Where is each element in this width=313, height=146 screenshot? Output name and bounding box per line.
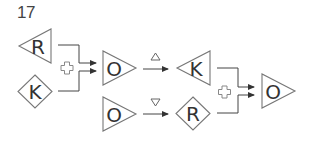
plus-icon (61, 62, 73, 74)
diamond-k: K (18, 75, 52, 108)
left-triangle-k: K (177, 51, 210, 85)
right-triangle-o-result: O (262, 74, 295, 108)
letter-k: K (28, 80, 42, 104)
plus-icon (219, 86, 231, 98)
diamond-r: R (176, 97, 210, 130)
letter-o: O (265, 80, 281, 104)
letter-k: K (189, 57, 203, 81)
letter-r: R (31, 35, 45, 59)
letter-o: O (106, 57, 122, 81)
down-triangle-icon (151, 99, 160, 106)
transform-down (143, 99, 168, 114)
letter-o: O (106, 103, 122, 127)
up-triangle-icon (151, 53, 160, 60)
letter-r: R (186, 102, 200, 126)
puzzle-diagram: 17 R K O (0, 0, 313, 146)
right-triangle-o-bottom: O (103, 97, 136, 131)
left-triangle-r: R (19, 29, 51, 63)
right-triangle-o-top: O (103, 51, 136, 85)
transform-up (143, 53, 168, 69)
puzzle-number: 17 (17, 3, 35, 23)
